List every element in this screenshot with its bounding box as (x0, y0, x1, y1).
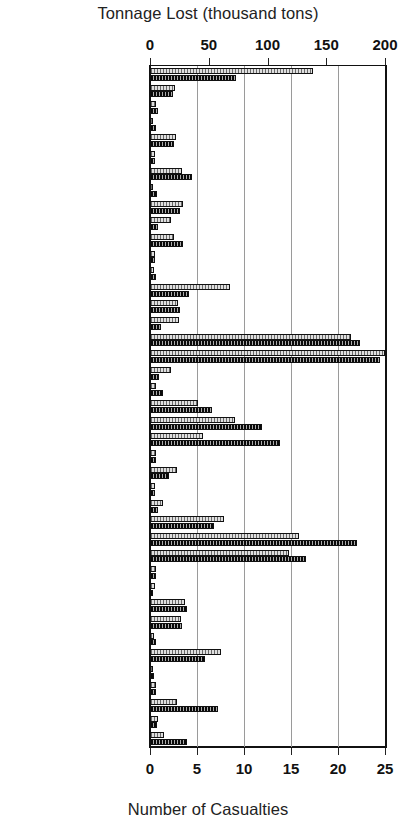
bar-tonnage (150, 533, 299, 539)
bar-casualties (150, 739, 187, 745)
chart-row: Polish (150, 564, 386, 581)
chart-row: Philippino (150, 548, 386, 565)
bar-tonnage (150, 168, 182, 174)
chart-row: Danish (150, 215, 386, 232)
bar-casualties (150, 507, 158, 513)
chart-row: Unlisted (150, 66, 386, 83)
chart-row: Tunisian (150, 681, 386, 698)
chart-row: Norwegian (150, 514, 386, 531)
bar-casualties (150, 623, 182, 629)
bar-casualties (150, 324, 161, 330)
chart-row: Algerian (150, 83, 386, 100)
chart-row: Portugese (150, 581, 386, 598)
chart-row: Turkish (150, 697, 386, 714)
bar-tonnage (150, 251, 155, 257)
chart-row: American (150, 99, 386, 116)
top-tick-label-0: 0 (146, 36, 154, 53)
chart-row: Japanese (150, 415, 386, 432)
top-tick-0 (150, 58, 151, 65)
bar-tonnage (150, 134, 176, 140)
bottom-tick-20 (338, 748, 339, 755)
bar-tonnage (150, 383, 156, 389)
bar-casualties (150, 340, 360, 346)
chart-row: Finnish (150, 282, 386, 299)
bar-casualties (150, 523, 214, 529)
bar-casualties (150, 374, 159, 380)
bar-tonnage (150, 267, 154, 273)
top-tick-50 (209, 58, 210, 65)
chart-row: Liberian (150, 431, 386, 448)
chart-row: Aremmian (150, 116, 386, 133)
bar-tonnage (150, 483, 155, 489)
bar-casualties (150, 357, 380, 363)
top-tick-label-50: 50 (200, 36, 217, 53)
bottom-tick-10 (244, 748, 245, 755)
top-tick-label-150: 150 (314, 36, 339, 53)
chart-row: Swedish (150, 647, 386, 664)
top-axis-title: Tonnage Lost (thousand tons) (0, 4, 416, 23)
bar-casualties (150, 673, 154, 679)
chart-row: Bahamian (150, 132, 386, 149)
bar-casualties (150, 257, 155, 263)
chart-row: Italian (150, 398, 386, 415)
bar-casualties (150, 241, 183, 247)
bar-tonnage (150, 201, 183, 207)
chart-row: Cypriot (150, 199, 386, 216)
bottom-tick-label-5: 5 (193, 760, 201, 777)
chart-row: Venezuelan (150, 730, 386, 747)
bar-casualties (150, 639, 156, 645)
chart-row: Russian (150, 598, 386, 615)
bottom-tick-5 (197, 748, 198, 755)
bottom-tick-15 (291, 748, 292, 755)
bar-casualties (150, 208, 180, 214)
bar-casualties (150, 606, 187, 612)
bar-tonnage (150, 234, 174, 240)
chart-plot-area: 050100150200 0510152025 UnlistedAlgerian… (150, 66, 386, 747)
bar-tonnage (150, 550, 289, 556)
bar-tonnage (150, 350, 385, 356)
bar-casualties (150, 158, 155, 164)
bar-casualties (150, 174, 192, 180)
bar-casualties (150, 224, 158, 230)
bar-casualties (150, 108, 158, 114)
bar-tonnage (150, 699, 177, 705)
bottom-tick-label-10: 10 (236, 760, 253, 777)
bar-tonnage (150, 68, 313, 74)
bar-tonnage (150, 633, 154, 639)
chart-row: Mexican (150, 481, 386, 498)
bar-casualties (150, 191, 157, 197)
bar-tonnage (150, 732, 164, 738)
bar-tonnage (150, 649, 221, 655)
bar-casualties (150, 457, 156, 463)
bar-casualties (150, 656, 205, 662)
chart-row: German (150, 315, 386, 332)
bar-tonnage (150, 583, 155, 589)
bar-tonnage (150, 400, 198, 406)
bar-tonnage (150, 467, 177, 473)
bar-tonnage (150, 450, 156, 456)
chart-row: St. Vincent. (150, 631, 386, 648)
top-tick-200 (385, 58, 386, 65)
chart-row: Spanish (150, 614, 386, 631)
chart-row: Netherland Antilles (150, 498, 386, 515)
bar-casualties (150, 141, 174, 147)
bar-casualties (150, 722, 157, 728)
bar-tonnage (150, 151, 155, 157)
bar-casualties (150, 706, 218, 712)
bar-tonnage (150, 334, 351, 340)
bar-casualties (150, 407, 212, 413)
chart-row: Canadian (150, 182, 386, 199)
bar-casualties (150, 75, 236, 81)
chart-row: British (150, 166, 386, 183)
bar-tonnage (150, 85, 175, 91)
bar-tonnage (150, 417, 235, 423)
bar-tonnage (150, 599, 185, 605)
top-tick-100 (268, 58, 269, 65)
bar-tonnage (150, 500, 163, 506)
bar-tonnage (150, 317, 179, 323)
bar-casualties (150, 307, 180, 313)
bar-casualties (150, 390, 163, 396)
bottom-tick-label-0: 0 (146, 760, 154, 777)
top-tick-150 (326, 58, 327, 65)
top-tick-label-200: 200 (372, 36, 397, 53)
